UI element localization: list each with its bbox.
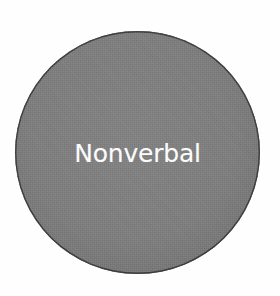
figure-canvas: Nonverbal bbox=[0, 0, 280, 296]
nonverbal-circle-node[interactable]: Nonverbal bbox=[15, 31, 260, 274]
nonverbal-circle-label: Nonverbal bbox=[74, 141, 201, 166]
